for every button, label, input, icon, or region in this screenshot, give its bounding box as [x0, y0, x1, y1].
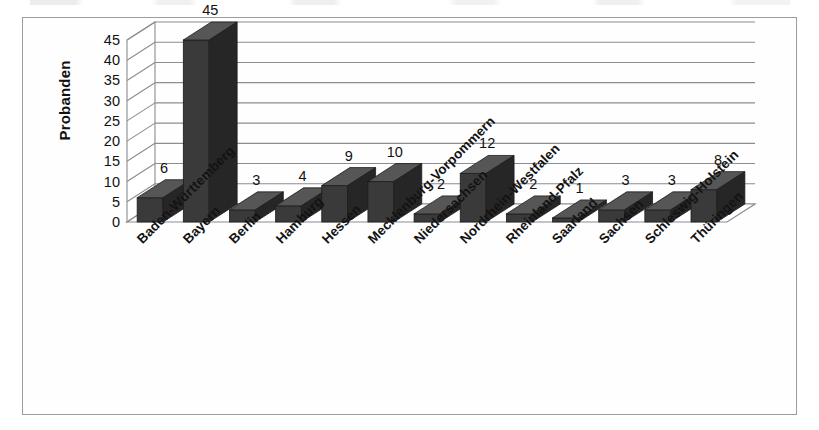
chart-labels-layer: 6Baden-Württemberg45Bayern3Berlin4Hambur…	[0, 0, 819, 430]
bar-value-label: 3	[236, 173, 276, 187]
bar-value-label: 8	[698, 153, 738, 167]
bar-value-label: 3	[606, 173, 646, 187]
bar-value-label: 2	[421, 177, 461, 191]
bar-value-label: 9	[329, 149, 369, 163]
bar-value-label: 12	[467, 136, 507, 150]
bar-value-label: 1	[559, 181, 599, 195]
x-axis-category-label: Sachsen	[596, 196, 646, 246]
bar-value-label: 4	[283, 169, 323, 183]
bar-value-label: 45	[190, 3, 230, 17]
bar-value-label: 2	[513, 177, 553, 191]
x-axis-category-label: Hessen	[319, 202, 364, 247]
screenshot-root: Probanden 051015202530354045 6Baden-Würt…	[0, 0, 819, 430]
x-axis-category-label: Bayern	[180, 203, 223, 246]
bar-value-label: 3	[652, 173, 692, 187]
x-axis-category-label: Hamburg	[273, 194, 326, 247]
bar-value-label: 10	[375, 145, 415, 159]
x-axis-category-label: Berlin	[226, 209, 264, 247]
bar-value-label: 6	[144, 161, 184, 175]
